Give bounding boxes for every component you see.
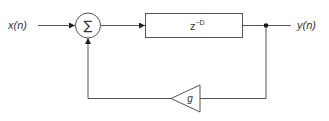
output-label: y(n) [296, 19, 316, 31]
diagram-canvas: x(n) ∑ z−D y(n) g [0, 0, 329, 121]
delay-block: z−D [146, 14, 243, 38]
gain-block: g [171, 85, 200, 112]
sigma-icon: ∑ [84, 18, 93, 33]
input-label: x(n) [7, 19, 27, 31]
feedback-path-left [88, 38, 171, 99]
gain-label: g [187, 93, 193, 104]
summer-node: ∑ [76, 13, 101, 38]
